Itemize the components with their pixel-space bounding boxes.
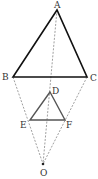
- label-A: A: [53, 0, 61, 10]
- point-O-dot: [42, 163, 45, 166]
- label-C: C: [90, 73, 97, 83]
- label-E: E: [20, 120, 27, 130]
- label-D: D: [52, 86, 59, 96]
- label-B: B: [2, 72, 9, 82]
- homothety-diagram: A B C D E F O: [0, 0, 98, 179]
- triangle-ABC: [13, 10, 87, 77]
- label-F: F: [66, 120, 72, 130]
- label-O: O: [40, 168, 47, 178]
